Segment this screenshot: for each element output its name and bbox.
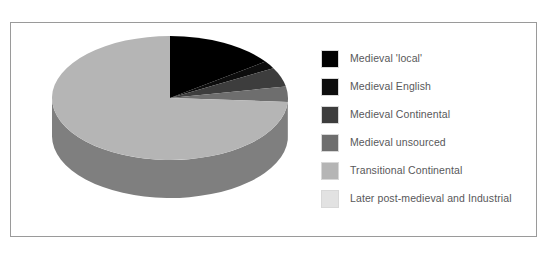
legend-item: Transitional Continental	[321, 157, 533, 185]
legend-item: Later post-medieval and Industrial	[321, 185, 533, 213]
legend-item-label: Later post-medieval and Industrial	[350, 193, 512, 205]
figure-canvas: Medieval 'local'Medieval EnglishMedieval…	[0, 0, 551, 259]
legend-item-label: Medieval 'local'	[350, 53, 422, 65]
legend-item: Medieval 'local'	[321, 45, 533, 73]
legend-item: Medieval unsourced	[321, 129, 533, 157]
legend-item: Medieval Continental	[321, 101, 533, 129]
legend-swatch	[321, 78, 339, 96]
legend-item-label: Transitional Continental	[350, 165, 462, 177]
plot-area: Medieval 'local'Medieval EnglishMedieval…	[11, 23, 538, 238]
legend-item-label: Medieval English	[350, 81, 431, 93]
legend-swatch	[321, 50, 339, 68]
legend-item-label: Medieval Continental	[350, 109, 450, 121]
legend-item-label: Medieval unsourced	[350, 137, 446, 149]
pie-top-surface	[52, 36, 288, 160]
legend-item: Medieval English	[321, 73, 533, 101]
legend-swatch	[321, 162, 339, 180]
legend-swatch	[321, 190, 339, 208]
pie-chart-3d	[49, 31, 309, 216]
legend-swatch	[321, 106, 339, 124]
chart-frame-border: Medieval 'local'Medieval EnglishMedieval…	[10, 22, 537, 237]
legend: Medieval 'local'Medieval EnglishMedieval…	[321, 45, 533, 213]
legend-swatch	[321, 134, 339, 152]
